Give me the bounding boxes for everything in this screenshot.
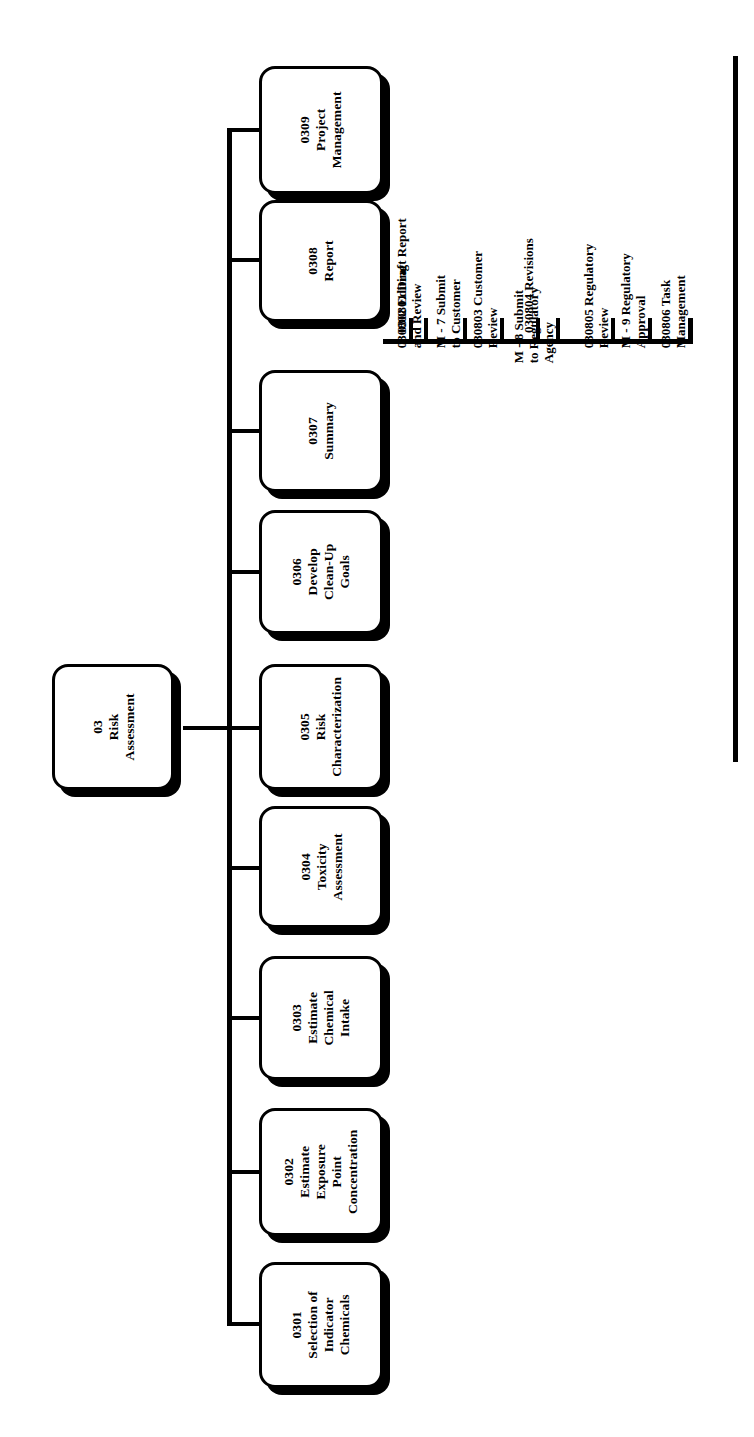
wbs-node-0304-label: 0304 Toxicity Assessment	[297, 833, 345, 900]
wbs-node-0302-estimate-exposure-point-concentration[interactable]: 0302 Estimate Exposure Point Concentrati…	[259, 1108, 383, 1236]
wbs-node-0308-label: 0308 Report	[305, 240, 337, 281]
wbs-node-0309-label: 0309 Project Management	[297, 92, 345, 169]
wbs-node-03-risk-assessment[interactable]: 03 Risk Assessment	[52, 664, 174, 790]
subtask-label-m7-submit-to-customer[interactable]: M - 7 Submit to Customer	[433, 275, 463, 348]
child-stub-0304	[227, 866, 259, 870]
subtask-tick-030802	[424, 318, 428, 342]
wbs-node-0306-label: 0306 Develop Clean-Up Goals	[289, 544, 353, 600]
page-edge-rule	[733, 56, 738, 762]
child-stub-0305	[227, 726, 259, 730]
subtask-label-030802[interactable]: 030802 Editing and Review	[394, 265, 424, 348]
subtask-label-030806-task-management[interactable]: 030806 Task Management	[658, 275, 688, 348]
wbs-node-0307-label: 0307 Summary	[305, 402, 337, 460]
subtask-tick-m8	[556, 318, 560, 342]
child-stub-0308	[227, 258, 259, 262]
wbs-node-0305-label: 0305 Risk Characterization	[297, 677, 345, 777]
wbs-node-0306-develop-clean-up-goals[interactable]: 0306 Develop Clean-Up Goals	[259, 510, 383, 634]
wbs-node-0303-estimate-chemical-intake[interactable]: 0303 Estimate Chemical Intake	[259, 956, 383, 1080]
wbs-node-0303-label: 0303 Estimate Chemical Intake	[289, 990, 353, 1046]
wbs-node-0308-report[interactable]: 0308 Report	[259, 200, 383, 322]
wbs-node-0304-toxicity-assessment[interactable]: 0304 Toxicity Assessment	[259, 806, 383, 928]
subtask-tick-030803	[500, 318, 504, 342]
wbs-node-0301-label: 0301 Selection of Indicator Chemicals	[289, 1291, 353, 1359]
subtask-label-030803[interactable]: 030803 Customer Review	[470, 251, 500, 348]
child-stub-0307	[227, 429, 259, 433]
wbs-node-0302-label: 0302 Estimate Exposure Point Concentrati…	[281, 1130, 361, 1215]
child-stub-0309	[227, 128, 259, 132]
wbs-node-03-label: 03 Risk Assessment	[89, 693, 137, 760]
subtask-tick-m9	[648, 318, 652, 342]
wbs-node-0307-summary[interactable]: 0307 Summary	[259, 370, 383, 492]
subtask-label-m8-submit-to-regulatory-agency[interactable]: M - 8 Submit to Regulatory Agency	[511, 287, 556, 363]
subtask-bus-end-elbow	[688, 318, 693, 344]
subtask-label-m9-regulatory-approval[interactable]: M - 9 Regulatory Approval	[618, 253, 648, 348]
subtask-label-030805[interactable]: 030805 Regulatory Review	[581, 244, 611, 348]
child-stub-0302	[227, 1170, 259, 1174]
wbs-node-0309-project-management[interactable]: 0309 Project Management	[259, 66, 383, 194]
wbs-node-0305-risk-characterization[interactable]: 0305 Risk Characterization	[259, 664, 383, 790]
child-stub-0303	[227, 1016, 259, 1020]
root-connector-horizontal	[183, 726, 231, 730]
wbs-node-0301-selection-of-indicator-chemicals[interactable]: 0301 Selection of Indicator Chemicals	[259, 1262, 383, 1388]
subtask-tick-m7	[463, 318, 467, 342]
child-stub-0301	[227, 1322, 259, 1326]
wbs-diagram-canvas: 03 Risk Assessment 0309 Project Manageme…	[0, 0, 754, 1437]
subtask-tick-030805	[611, 318, 615, 342]
child-stub-0306	[227, 570, 259, 574]
